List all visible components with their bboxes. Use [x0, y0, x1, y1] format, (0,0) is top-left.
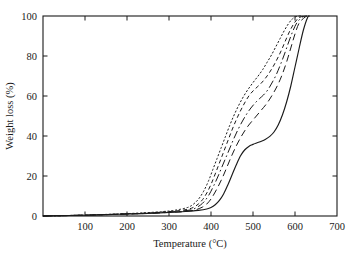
chart-root: 100200300400500600700020406080100Tempera… [0, 0, 350, 263]
y-tick-label: 80 [27, 51, 38, 62]
tga-line-chart: 100200300400500600700020406080100Tempera… [0, 0, 350, 263]
y-tick-label: 20 [27, 171, 38, 182]
y-tick-label: 40 [27, 131, 38, 142]
series-curve-3 [43, 16, 307, 216]
axes-layer [43, 16, 337, 216]
y-tick-label: 0 [32, 211, 37, 222]
x-tick-label: 300 [161, 221, 177, 232]
x-axis-label: Temperature (°C) [153, 238, 227, 250]
x-tick-label: 700 [329, 221, 345, 232]
x-tick-label: 100 [77, 221, 93, 232]
x-tick-label: 600 [287, 221, 303, 232]
y-tick-label: 60 [27, 91, 38, 102]
series-curve-5 [43, 16, 301, 216]
series-curve-4 [43, 16, 304, 216]
x-tick-label: 400 [203, 221, 219, 232]
series-curve-1 [43, 16, 310, 216]
y-tick-label: 100 [21, 11, 37, 22]
y-axis-label: Weight loss (%) [4, 82, 16, 150]
x-tick-label: 200 [119, 221, 135, 232]
labels-layer: 100200300400500600700020406080100Tempera… [4, 11, 345, 250]
x-tick-label: 500 [245, 221, 261, 232]
series-layer [43, 16, 310, 216]
series-curve-2 [43, 16, 308, 216]
